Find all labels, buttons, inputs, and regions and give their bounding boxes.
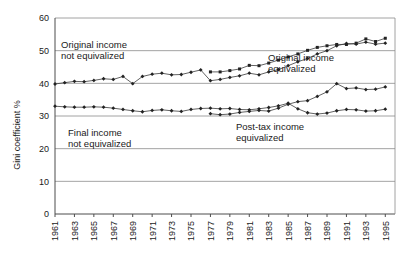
data-point	[326, 44, 329, 47]
y-tick-label-10: 10	[39, 177, 49, 187]
x-tick-label-1975: 1975	[186, 221, 196, 241]
x-tick-label-1983: 1983	[264, 221, 274, 241]
x-tick-label-1967: 1967	[109, 221, 119, 241]
data-point	[384, 37, 387, 40]
x-tick-label-1993: 1993	[361, 221, 371, 241]
x-tick-label-1987: 1987	[303, 221, 313, 241]
data-point	[209, 70, 212, 73]
annotation-line-1: Final income	[68, 127, 122, 138]
x-tick-label-1985: 1985	[284, 221, 294, 241]
data-point	[335, 43, 338, 46]
annotation-line-1: Post-tax income	[236, 121, 304, 132]
data-point	[355, 42, 358, 45]
x-tick-label-1977: 1977	[206, 221, 216, 241]
x-tick-label-1989: 1989	[322, 221, 332, 241]
y-axis-title: Gini coefficient %	[12, 100, 22, 169]
data-point	[364, 37, 367, 40]
data-point	[248, 64, 251, 67]
y-tick-label-30: 30	[39, 111, 49, 121]
annotation-line-1: Original income	[61, 39, 127, 50]
x-tick-label-1991: 1991	[342, 221, 352, 241]
annotation-line-2: not equivalized	[61, 50, 124, 61]
x-tick-label-1979: 1979	[225, 221, 235, 241]
data-point	[238, 67, 241, 70]
x-tick-label-1981: 1981	[245, 221, 255, 241]
data-point	[219, 70, 222, 73]
annotation-line-2: equivalized	[236, 132, 284, 143]
x-tick-label-1963: 1963	[70, 221, 80, 241]
annotation-line-2: not equivalized	[68, 138, 131, 149]
chart-canvas: 0102030405060 19611963196519671969197119…	[0, 0, 413, 265]
y-tick-label-0: 0	[44, 209, 49, 219]
x-tick-label-1961: 1961	[50, 221, 60, 241]
gini-coefficient-line-chart: 0102030405060 19611963196519671969197119…	[0, 0, 413, 265]
annotation-line-2: equivalized	[268, 63, 316, 74]
x-tick-label-1995: 1995	[381, 221, 391, 241]
data-point	[345, 43, 348, 46]
x-tick-label-1969: 1969	[128, 221, 138, 241]
y-tick-label-20: 20	[39, 144, 49, 154]
data-point	[258, 64, 261, 67]
y-tick-label-40: 40	[39, 79, 49, 89]
x-tick-label-1965: 1965	[89, 221, 99, 241]
data-point	[374, 40, 377, 43]
annotation-original-income-not-equivalized: Original incomenot equivalized	[61, 39, 127, 61]
data-point	[316, 46, 319, 49]
x-tick-label-1973: 1973	[167, 221, 177, 241]
y-tick-label-50: 50	[39, 46, 49, 56]
x-tick-label-1971: 1971	[148, 221, 158, 241]
y-tick-label-60: 60	[39, 13, 49, 23]
data-point	[228, 69, 231, 72]
annotation-line-1: Original income	[268, 52, 334, 63]
